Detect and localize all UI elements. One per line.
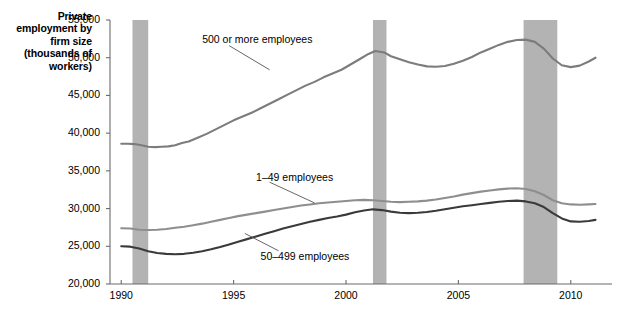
- leader-1-49: [270, 182, 315, 203]
- plot-area: [0, 0, 617, 312]
- leader-50-499: [245, 233, 279, 250]
- leader-500-or-more: [229, 46, 269, 70]
- employment-by-firm-size-chart: Private employment by firm size (thousan…: [0, 0, 617, 312]
- recession-band-3: [524, 20, 558, 284]
- recession-band-2: [373, 20, 386, 284]
- recession-band-1: [132, 20, 148, 284]
- series-label-2: 50–499 employees: [261, 251, 350, 262]
- series-label-1: 1–49 employees: [256, 172, 333, 183]
- series-label-0: 500 or more employees: [202, 34, 312, 45]
